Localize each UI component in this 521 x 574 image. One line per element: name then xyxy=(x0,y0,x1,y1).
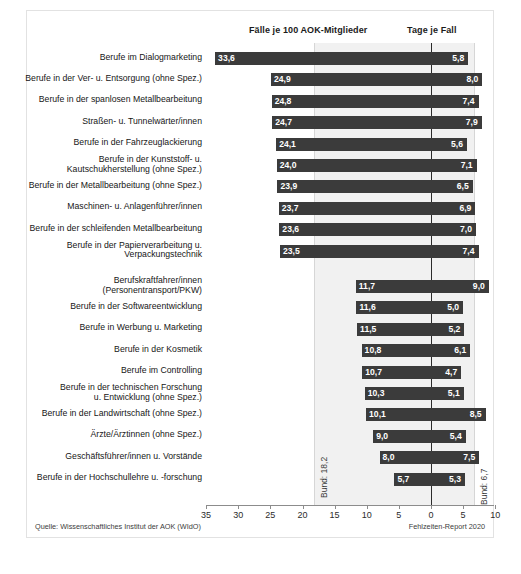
bar-value-cases: 8,0 xyxy=(383,451,395,464)
axis-tick xyxy=(399,505,400,509)
axis-tick xyxy=(270,505,271,509)
row-label-line: Berufe in der Kosmetik xyxy=(0,345,202,355)
bar-value-days: 5,1 xyxy=(431,387,460,400)
table-row: Berufe in der Kunststoff- u.Kautschukher… xyxy=(27,158,494,174)
row-label: Berufe in der Hochschullehre u. -forschu… xyxy=(0,473,202,483)
table-row: Maschinen- u. Anlagenführer/innen23,76,9 xyxy=(27,201,494,217)
bar-value-cases: 10,8 xyxy=(365,344,382,357)
row-label-line: Berufe in der schleifenden Metallbearbei… xyxy=(0,224,202,234)
table-row: Geschäftsführer/innen u. Vorstände8,07,5 xyxy=(27,450,494,466)
row-label-line: Maschinen- u. Anlagenführer/innen xyxy=(0,202,202,212)
bar-value-cases: 24,9 xyxy=(274,73,291,86)
report-note: Fehlzeiten-Report 2020 xyxy=(409,522,485,531)
axis-tick xyxy=(335,505,336,509)
axis-tick xyxy=(367,505,368,509)
row-label-line: u. Entwicklung (ohne Spez.) xyxy=(0,393,202,403)
axis-tick-label: 15 xyxy=(330,510,340,520)
table-row: Berufe in der spanlosen Metallbearbeitun… xyxy=(27,94,494,110)
bar-value-days: 6,5 xyxy=(431,180,469,193)
axis-tick xyxy=(206,505,207,509)
table-row: Berufe in der Fahrzeuglackierung24,15,6 xyxy=(27,137,494,153)
table-row: Berufe in der Hochschullehre u. -forschu… xyxy=(27,472,494,488)
table-row: Berufe in der Kosmetik10,86,1 xyxy=(27,343,494,359)
bar-value-days: 5,4 xyxy=(431,430,462,443)
row-label-line: Berufe in der spanlosen Metallbearbeitun… xyxy=(0,95,202,105)
table-row: Berufe in Werbung u. Marketing11,55,2 xyxy=(27,322,494,338)
bar-value-cases: 23,6 xyxy=(282,223,299,236)
table-row: Straßen- u. Tunnelwärter/innen24,77,9 xyxy=(27,115,494,131)
bar-value-days: 5,8 xyxy=(431,52,464,65)
bar-value-days: 7,1 xyxy=(431,159,473,172)
bar-value-cases: 23,5 xyxy=(283,245,300,258)
bar-value-days: 6,9 xyxy=(431,202,471,215)
row-label: Straßen- u. Tunnelwärter/innen xyxy=(0,117,202,127)
row-label: Berufe in der technischen Forschungu. En… xyxy=(0,383,202,402)
table-row: Berufe in der schleifenden Metallbearbei… xyxy=(27,222,494,238)
bar-cases xyxy=(272,95,431,108)
row-label-line: Berufe in der Ver- u. Entsorgung (ohne S… xyxy=(0,74,202,84)
row-label-line: Geschäftsführer/innen u. Vorstände xyxy=(0,452,202,462)
row-label-line: Berufe im Controlling xyxy=(0,366,202,376)
axis-tick xyxy=(238,505,239,509)
bar-value-cases: 33,6 xyxy=(218,52,235,65)
row-label-line: Berufe in der Landwirtschaft (ohne Spez.… xyxy=(0,409,202,419)
row-label: Maschinen- u. Anlagenführer/innen xyxy=(0,202,202,212)
bar-cases xyxy=(277,180,431,193)
bar-value-cases: 11,5 xyxy=(360,323,376,336)
column-header-cases: Fälle je 100 AOK-Mitglieder xyxy=(249,25,367,35)
row-label: Ärzte/Ärztinnen (ohne Spez.) xyxy=(0,430,202,440)
axis-tick-label: 20 xyxy=(297,510,307,520)
bar-cases xyxy=(279,202,431,215)
table-row: Berufe in der Landwirtschaft (ohne Spez.… xyxy=(27,407,494,423)
row-label: Berufe in der Kunststoff- u.Kautschukher… xyxy=(0,155,202,174)
plot-area: Bund: 18,2 Bund: 6,7 Berufe im Dialogmar… xyxy=(27,43,494,505)
bar-value-cases: 23,9 xyxy=(280,180,297,193)
axis-tick-label: 5 xyxy=(461,510,466,520)
axis-tick xyxy=(303,505,304,509)
table-row: Berufe in der Metallbearbeitung (ohne Sp… xyxy=(27,179,494,195)
source-note: Quelle: Wissenschaftliches Institut der … xyxy=(35,522,201,531)
bar-value-days: 7,4 xyxy=(431,95,475,108)
bar-cases xyxy=(279,223,431,236)
bar-value-cases: 10,3 xyxy=(368,387,385,400)
bar-cases xyxy=(277,159,431,172)
row-label: Berufe im Controlling xyxy=(0,366,202,376)
row-label: Berufe in der Softwareentwicklung xyxy=(0,302,202,312)
bar-value-cases: 24,7 xyxy=(275,116,292,129)
row-label-line: Ärzte/Ärztinnen (ohne Spez.) xyxy=(0,430,202,440)
table-row: Berufe im Controlling10,74,7 xyxy=(27,365,494,381)
row-label: Berufe in der Ver- u. Entsorgung (ohne S… xyxy=(0,74,202,84)
row-label-line: Berufe im Dialogmarketing xyxy=(0,53,202,63)
bar-cases xyxy=(271,73,431,86)
row-label-line: Straßen- u. Tunnelwärter/innen xyxy=(0,117,202,127)
row-label-line: Berufe in der Softwareentwicklung xyxy=(0,302,202,312)
row-label: Berufe in der schleifenden Metallbearbei… xyxy=(0,224,202,234)
row-label-line: Berufe in der Fahrzeuglackierung xyxy=(0,138,202,148)
chart-figure: Fälle je 100 AOK-Mitglieder Tage je Fall… xyxy=(26,10,494,538)
axis-tick xyxy=(495,505,496,509)
table-row: Berufe in der Ver- u. Entsorgung (ohne S… xyxy=(27,72,494,88)
row-label: Berufe in der Metallbearbeitung (ohne Sp… xyxy=(0,181,202,191)
bar-value-days: 8,0 xyxy=(431,73,478,86)
axis-tick xyxy=(431,505,432,509)
row-label: Berufe in Werbung u. Marketing xyxy=(0,323,202,333)
row-label: Berufskraftfahrer/innen(Personentranspor… xyxy=(0,276,202,295)
axis-tick-label: 0 xyxy=(428,510,433,520)
bar-value-days: 6,1 xyxy=(431,344,466,357)
bar-value-cases: 11,6 xyxy=(359,301,375,314)
table-row: Berufe in der Papierverarbeitung u.Verpa… xyxy=(27,244,494,260)
bar-value-cases: 24,0 xyxy=(280,159,297,172)
bar-value-cases: 10,7 xyxy=(365,366,382,379)
row-label: Berufe im Dialogmarketing xyxy=(0,53,202,63)
bar-value-cases: 9,0 xyxy=(376,430,388,443)
row-label-line: (Personentransport/PKW) xyxy=(0,286,202,296)
table-row: Berufskraftfahrer/innen(Personentranspor… xyxy=(27,279,494,295)
bar-value-days: 7,5 xyxy=(431,451,475,464)
bar-value-days: 7,0 xyxy=(431,223,472,236)
bar-value-cases: 11,7 xyxy=(359,280,375,293)
row-label: Berufe in der Kosmetik xyxy=(0,345,202,355)
column-header-days: Tage je Fall xyxy=(407,25,457,35)
axis-tick-label: 25 xyxy=(265,510,275,520)
bar-cases xyxy=(215,52,431,65)
table-row: Berufe im Dialogmarketing33,65,8 xyxy=(27,51,494,67)
